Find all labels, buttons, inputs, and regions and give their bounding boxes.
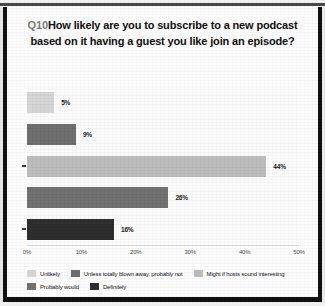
legend-item-probably-would[interactable]: Probably would [27, 283, 79, 290]
x-axis-tick-label: 20% [130, 249, 141, 255]
bar-probably-would [27, 187, 168, 208]
bar-row: 44% [27, 156, 299, 177]
legend-item-unlikely[interactable]: Unlikely [27, 270, 60, 277]
legend-label: Might if hosts sound interesting [207, 271, 285, 277]
x-axis-line [27, 245, 299, 246]
legend-swatch-icon [71, 270, 80, 277]
legend-swatch-icon [194, 270, 203, 277]
legend-item-might-if-hosts-sound-interesting[interactable]: Might if hosts sound interesting [194, 270, 285, 277]
page-frame-bottom [3, 297, 322, 302]
legend-label: Unless totally blown away, probably not [84, 271, 183, 277]
page-frame-right [318, 7, 322, 299]
x-axis-tick-label: 50% [293, 249, 304, 255]
legend-label: Probably would [40, 284, 79, 290]
legend-label: Unlikely [40, 271, 60, 277]
bar-value-label: 26% [175, 194, 187, 201]
legend-swatch-icon [90, 283, 99, 290]
bar-chart-plot: 5%9%44%26%16% [27, 87, 299, 245]
bar-value-label: 5% [61, 99, 70, 106]
x-axis-tick-label: 40% [239, 249, 250, 255]
bar-row: 9% [27, 124, 299, 145]
bar-row: 5% [27, 92, 299, 113]
bar-row: 16% [27, 219, 299, 240]
slide-card: Q10How likely are you to subscribe to a … [7, 7, 318, 297]
legend-label: Definitely [103, 284, 126, 290]
question-text: How likely are you to subscribe to a new… [30, 19, 297, 47]
x-axis-tick-label: 0% [23, 249, 31, 255]
bar-might-if-hosts-sound-interesting [27, 156, 266, 177]
legend-swatch-icon [27, 270, 36, 277]
page-bleed-bottom [0, 302, 325, 306]
legend-item-definitely[interactable]: Definitely [90, 283, 126, 290]
x-axis-ticks: 0%10%20%30%40%50% [27, 249, 299, 261]
bar-row: 26% [27, 187, 299, 208]
chart-legend: UnlikelyUnless totally blown away, proba… [27, 267, 312, 293]
legend-item-unless-totally-blown-away-probably-not[interactable]: Unless totally blown away, probably not [71, 270, 183, 277]
axis-tick-mark [22, 165, 26, 167]
axis-tick-mark [22, 228, 26, 230]
bar-unless-totally-blown-away-probably-not [27, 124, 76, 145]
page-frame-top [0, 0, 325, 7]
x-axis-tick-label: 30% [184, 249, 195, 255]
bar-unlikely [27, 92, 54, 113]
bar-value-label: 9% [83, 131, 92, 138]
bar-value-label: 44% [273, 163, 285, 170]
bar-value-label: 16% [121, 226, 133, 233]
legend-row: Probably wouldDefinitely [27, 280, 312, 293]
chart-title: Q10How likely are you to subscribe to a … [21, 17, 304, 48]
question-number: Q10 [27, 19, 48, 31]
legend-swatch-icon [27, 283, 36, 290]
x-axis-tick-label: 10% [76, 249, 87, 255]
legend-row: UnlikelyUnless totally blown away, proba… [27, 267, 312, 280]
bar-definitely [27, 219, 114, 240]
slide-canvas: Q10How likely are you to subscribe to a … [0, 0, 325, 306]
